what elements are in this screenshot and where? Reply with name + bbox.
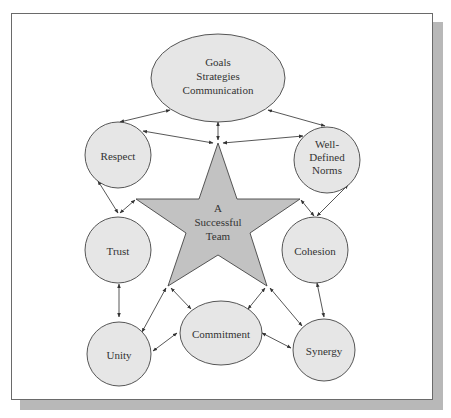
star-label-line-2: Successful	[194, 216, 241, 228]
node-norms: Well- Defined Norms	[294, 127, 360, 193]
norms-label-line-3: Norms	[312, 164, 342, 176]
node-goals: Goals Strategies Communication	[151, 34, 285, 122]
respect-label: Respect	[101, 150, 136, 162]
cohesion-label: Cohesion	[294, 245, 336, 257]
node-cohesion: Cohesion	[282, 217, 348, 283]
unity-label: Unity	[106, 349, 132, 361]
norms-label-line-2: Defined	[309, 151, 345, 163]
star-label-line-3: Team	[206, 230, 231, 242]
norms-label-line-1: Well-	[315, 138, 339, 150]
trust-label: Trust	[107, 245, 130, 257]
goals-label-line-1: Goals	[205, 56, 231, 68]
synergy-label: Synergy	[306, 345, 343, 357]
node-trust: Trust	[85, 217, 151, 283]
node-respect: Respect	[85, 122, 151, 188]
star-label-line-1: A	[214, 202, 222, 214]
node-unity: Unity	[87, 322, 151, 386]
commitment-label: Commitment	[192, 328, 250, 340]
goals-label-line-3: Communication	[183, 84, 254, 96]
team-diagram: A Successful Team Goals Strategies Commu…	[0, 0, 451, 418]
node-synergy: Synergy	[293, 319, 355, 381]
goals-label-line-2: Strategies	[196, 70, 239, 82]
center-star: A Successful Team	[136, 143, 300, 286]
node-commitment: Commitment	[180, 301, 262, 365]
